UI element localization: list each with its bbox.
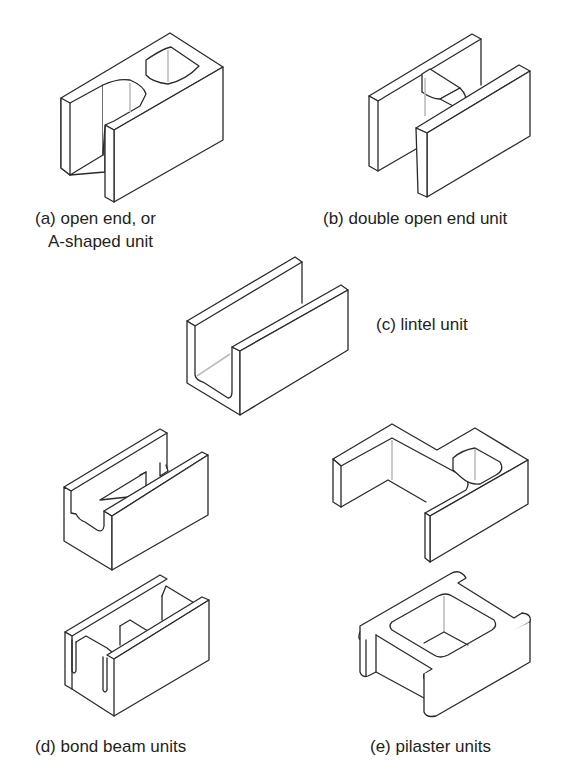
label-unit-e: (e) pilaster units <box>370 736 491 757</box>
label-unit-c: (c) lintel unit <box>376 314 468 335</box>
unit-c-lintel-drawing <box>187 257 348 415</box>
masonry-units-figure <box>0 0 580 784</box>
label-unit-b: (b) double open end unit <box>323 208 507 229</box>
unit-e-pilaster-lower-drawing <box>359 572 530 717</box>
unit-e-pilaster-upper-drawing <box>333 424 528 562</box>
unit-b-double-open-end-drawing <box>369 34 530 197</box>
label-unit-d: (d) bond beam units <box>35 736 186 757</box>
label-unit-a-line2: A-shaped unit <box>48 231 153 252</box>
label-unit-a-line1: (a) open end, or <box>35 208 156 229</box>
unit-a-open-end-drawing <box>61 33 223 202</box>
unit-d-bond-beam-lower-drawing <box>65 575 209 716</box>
unit-d-bond-beam-upper-drawing <box>64 429 208 570</box>
